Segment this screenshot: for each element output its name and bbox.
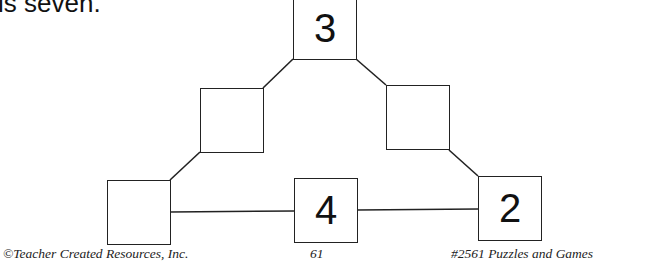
puzzle-box-bottom-left[interactable] xyxy=(107,180,171,245)
line-bottom-middle-to-bottom-right xyxy=(357,209,478,210)
line-right-middle-to-bottom-right xyxy=(449,150,478,176)
puzzle-box-right-middle[interactable] xyxy=(386,85,450,150)
puzzle-box-bottom-middle[interactable]: 4 xyxy=(294,178,358,243)
line-left-middle-to-bottom-left xyxy=(170,152,200,180)
line-bottom-left-to-bottom-middle xyxy=(170,211,294,212)
footer-copyright: ©Teacher Created Resources, Inc. xyxy=(3,246,188,262)
line-top-to-left-middle xyxy=(263,59,293,88)
puzzle-box-left-middle[interactable] xyxy=(200,88,264,153)
puzzle-box-bottom-right[interactable]: 2 xyxy=(478,176,542,241)
footer-page-number: 61 xyxy=(310,246,324,262)
footer-book-title: #2561 Puzzles and Games xyxy=(451,246,593,262)
puzzle-box-top[interactable]: 3 xyxy=(293,0,357,60)
line-top-to-right-middle xyxy=(356,59,386,85)
